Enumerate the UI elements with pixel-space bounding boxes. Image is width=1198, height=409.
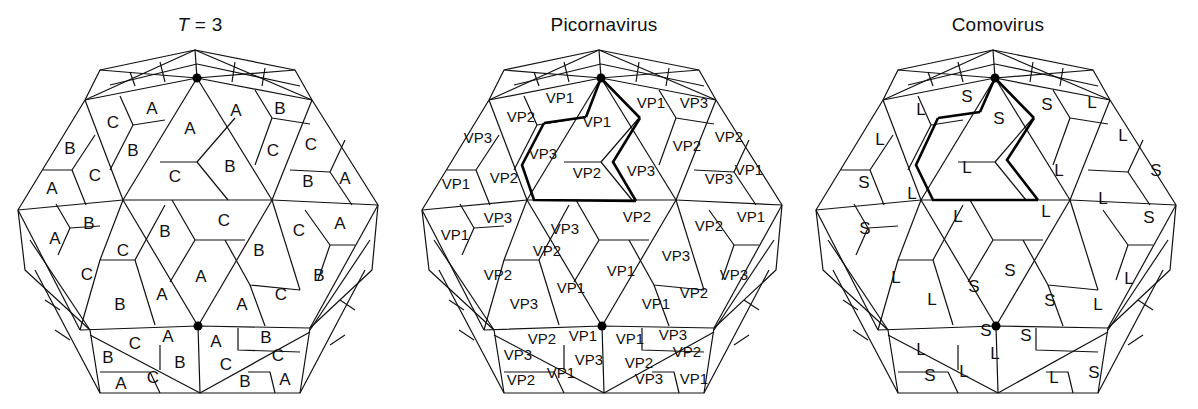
subunit-label: L bbox=[1093, 295, 1102, 314]
subunit-label: L bbox=[1098, 189, 1107, 208]
subunit-label: S bbox=[859, 219, 870, 238]
subunit-edge bbox=[100, 205, 165, 260]
subunit-edge bbox=[248, 372, 275, 393]
subunit-label: C bbox=[267, 141, 279, 160]
subunit-label: B bbox=[127, 141, 138, 160]
subunit-label: L bbox=[916, 100, 925, 119]
subunit-edge bbox=[1060, 68, 1063, 86]
subunit-label: A bbox=[230, 101, 242, 120]
subunit-label: A bbox=[184, 119, 196, 138]
subunit-edge bbox=[816, 200, 1176, 210]
subunit-edge bbox=[870, 170, 884, 205]
subunit-label: A bbox=[236, 295, 248, 314]
fivefold-axis-bottom-dot bbox=[194, 322, 203, 331]
subunit-edge bbox=[841, 135, 893, 170]
subunit-edge bbox=[1053, 118, 1070, 165]
subunit-edge bbox=[1036, 328, 1098, 352]
protomer-highlight bbox=[916, 78, 1038, 200]
subunit-edge bbox=[921, 78, 995, 200]
fivefold-axis-top-dot bbox=[991, 74, 1000, 83]
fivefold-axis-bottom-dot bbox=[598, 322, 607, 331]
subunit-edge bbox=[135, 260, 155, 325]
subunit-label: B bbox=[253, 241, 264, 260]
subunit-label: L bbox=[953, 207, 962, 226]
subunit-edge bbox=[970, 200, 1043, 240]
subunit-label: VP3 bbox=[484, 209, 512, 226]
subunit-edge bbox=[574, 240, 599, 282]
subunit-edge bbox=[1138, 300, 1153, 310]
subunit-edge bbox=[514, 64, 601, 85]
subunit-edge bbox=[676, 200, 704, 290]
subunit-label: C bbox=[81, 265, 93, 284]
subunit-label: VP3 bbox=[575, 351, 603, 368]
subunit-label: VP3 bbox=[720, 266, 748, 283]
subunit-edge bbox=[734, 335, 749, 345]
subunit-label: B bbox=[224, 157, 235, 176]
subunit-edge bbox=[744, 300, 759, 310]
subunit-label: A bbox=[46, 179, 58, 198]
subunit-label: VP2 bbox=[715, 128, 743, 145]
subunit-edge bbox=[250, 285, 265, 326]
subunit-edge bbox=[110, 64, 197, 85]
subunit-label: A bbox=[162, 327, 174, 346]
subunit-label: VP1 bbox=[547, 364, 575, 381]
subunit-label: VP1 bbox=[616, 330, 644, 347]
subunit-edge bbox=[198, 200, 272, 326]
subunit-label: VP3 bbox=[680, 94, 708, 111]
subunit-label: VP2 bbox=[673, 343, 701, 360]
subunit-label: B bbox=[102, 348, 113, 367]
subunit-edge bbox=[476, 170, 490, 205]
subunit-label: L bbox=[962, 158, 971, 177]
subunit-label: A bbox=[115, 374, 127, 393]
subunit-label: S bbox=[924, 366, 935, 385]
subunit-label: VP2 bbox=[507, 108, 535, 125]
subunit-label: VP2 bbox=[507, 371, 535, 388]
subunit-label: S bbox=[1020, 326, 1031, 345]
subunit-label: B bbox=[313, 266, 324, 285]
subunit-edge bbox=[995, 78, 1070, 200]
subunit-label: S bbox=[980, 321, 991, 340]
subunit-label: VP3 bbox=[464, 129, 492, 146]
subunit-label: C bbox=[89, 166, 101, 185]
subunit-edge bbox=[305, 210, 355, 245]
subunit-label: VP2 bbox=[673, 137, 701, 154]
subunit-label: C bbox=[129, 334, 141, 353]
subunit-label: A bbox=[49, 229, 61, 248]
capsid-lines bbox=[422, 50, 782, 393]
subunit-edge bbox=[1128, 335, 1143, 345]
capsid-lines bbox=[18, 50, 378, 393]
subunit-label: C bbox=[220, 355, 232, 374]
subunit-label: VP1 bbox=[735, 161, 763, 178]
subunit-label: L bbox=[959, 362, 968, 381]
subunit-edge bbox=[968, 240, 993, 282]
capsid-diagram-picornavirus: VP1VP2VP3VP1VP3VP1VP2VP2VP1VP3VP2VP2VP3V… bbox=[404, 0, 804, 409]
subunit-label: VP2 bbox=[490, 169, 518, 186]
subunit-label: S bbox=[858, 173, 869, 192]
subunit-label: L bbox=[907, 184, 916, 203]
subunit-label: B bbox=[83, 214, 94, 233]
subunit-label: VP3 bbox=[510, 295, 538, 312]
subunit-edge bbox=[1088, 140, 1143, 172]
subunit-label: B bbox=[114, 295, 125, 314]
subunit-label: L bbox=[891, 268, 900, 287]
subunit-label: A bbox=[339, 169, 351, 188]
subunit-label: L bbox=[990, 344, 999, 363]
subunit-label: C bbox=[218, 211, 230, 230]
subunit-edge bbox=[1023, 240, 1098, 290]
subunit-label: VP3 bbox=[705, 170, 733, 187]
subunit-label: S bbox=[1041, 95, 1052, 114]
subunit-label: VP1 bbox=[557, 279, 585, 296]
subunit-label: B bbox=[302, 172, 313, 191]
subunit-edge bbox=[527, 200, 602, 326]
subunit-label: A bbox=[146, 99, 158, 118]
subunit-label: B bbox=[239, 372, 250, 391]
subunit-label: C bbox=[169, 167, 181, 186]
subunit-label: VP1 bbox=[546, 89, 574, 106]
capsid-diagram-t3: ACBBACACBABCCBABACCBCBCAABBAACACABBBCCCA… bbox=[0, 0, 400, 409]
subunit-label: VP3 bbox=[551, 220, 579, 237]
subunit-label: S bbox=[961, 87, 972, 106]
subunit-edge bbox=[18, 200, 378, 210]
subunit-edge bbox=[1070, 200, 1098, 290]
subunit-edge bbox=[198, 326, 200, 393]
subunit-label: A bbox=[156, 285, 168, 304]
